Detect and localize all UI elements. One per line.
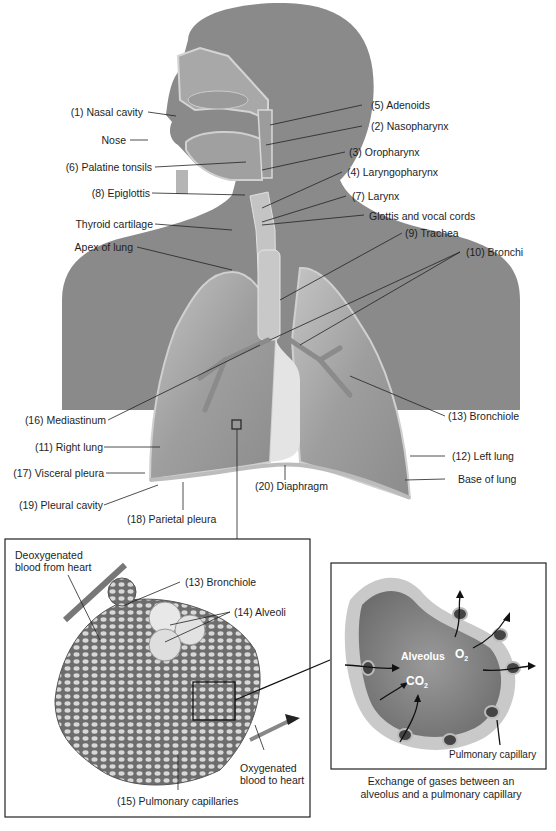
label-nasal-cavity: (1) Nasal cavity — [71, 106, 143, 118]
label-glottis-vocal-cords: Glottis and vocal cords — [369, 210, 475, 222]
label-diaphragm: (20) Diaphragm — [255, 480, 328, 492]
label-co2: CO2 — [406, 675, 428, 692]
label-left-lung: (12) Left lung — [452, 450, 514, 462]
label-o2: O2 — [455, 648, 468, 665]
label-right-lung: (11) Right lung — [35, 441, 103, 453]
label-parietal-pleura: (18) Parietal pleura — [127, 513, 216, 525]
caption-line-2: alveolus and a pulmonary capillary — [331, 788, 551, 801]
label-base-of-lung: Base of lung — [458, 473, 516, 485]
label-pulmonary-capillaries: (15) Pulmonary capillaries — [117, 795, 238, 807]
co2-symbol: CO — [406, 674, 424, 688]
label-laryngopharynx: (4) Laryngopharynx — [347, 166, 438, 178]
label-inset-bronchiole: (13) Bronchiole — [185, 576, 256, 588]
label-adenoids: (5) Adenoids — [371, 99, 430, 111]
oxygenated-line-2: blood to heart — [240, 774, 304, 786]
label-pulmonary-capillary: Pulmonary capillary — [449, 749, 536, 761]
label-oropharynx: (3) Oropharynx — [349, 146, 420, 158]
label-oxygenated-blood: Oxygenated blood to heart — [240, 762, 304, 786]
body-silhouette — [62, 3, 520, 410]
label-thyroid-cartilage: Thyroid cartilage — [75, 218, 153, 230]
label-epiglottis: (8) Epiglottis — [92, 187, 150, 199]
caption-line-1: Exchange of gases between an — [331, 775, 551, 788]
label-apex-of-lung: Apex of lung — [75, 241, 133, 253]
label-bronchi: (10) Bronchi — [466, 246, 523, 258]
label-larynx: (7) Larynx — [352, 190, 399, 202]
o2-symbol: O — [455, 647, 464, 661]
o2-subscript: 2 — [464, 655, 468, 662]
label-nose: Nose — [101, 134, 126, 146]
label-visceral-pleura: (17) Visceral pleura — [13, 467, 104, 479]
label-mediastinum: (16) Mediastinum — [25, 414, 106, 426]
label-alveolus: Alveolus — [401, 650, 445, 662]
deoxygenated-line-1: Deoxygenated — [15, 549, 91, 561]
label-nasopharynx: (2) Nasopharynx — [371, 120, 449, 132]
deoxygenated-line-2: blood from heart — [15, 561, 91, 573]
co2-subscript: 2 — [424, 682, 428, 689]
gas-exchange-inset-art — [331, 563, 546, 769]
label-palatine-tonsils: (6) Palatine tonsils — [66, 161, 152, 173]
label-deoxygenated-blood: Deoxygenated blood from heart — [15, 549, 91, 573]
oxygenated-line-1: Oxygenated — [240, 762, 304, 774]
label-alveoli: (14) Alveoli — [234, 606, 286, 618]
gas-exchange-caption: Exchange of gases between an alveolus an… — [331, 775, 551, 801]
label-trachea: (9) Trachea — [405, 227, 459, 239]
label-pleural-cavity: (19) Pleural cavity — [19, 499, 103, 511]
label-bronchiole: (13) Bronchiole — [448, 410, 519, 422]
